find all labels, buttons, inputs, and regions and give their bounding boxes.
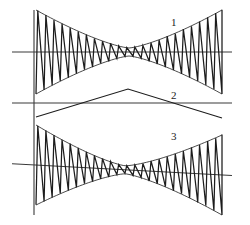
trace-label-1: 1	[171, 16, 177, 28]
trace-label-3: 3	[171, 130, 177, 142]
trace-label-2: 2	[171, 89, 177, 101]
waveform-figure: 1 2 3	[0, 0, 250, 225]
waveform-canvas: 1 2 3	[0, 0, 250, 225]
